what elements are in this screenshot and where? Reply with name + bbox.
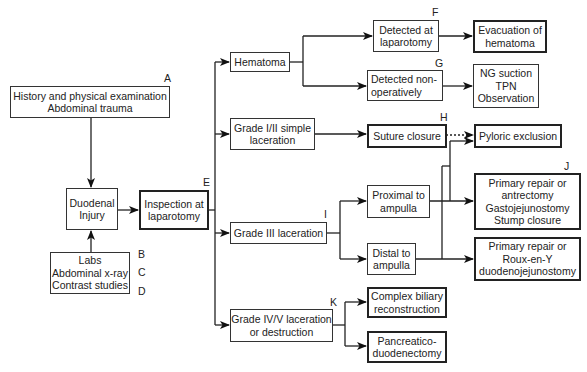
node-pancreatico: Pancreatico- duodenectomy [367, 331, 447, 363]
node-grade-3: Grade III laceration [230, 222, 327, 244]
letter-d: D [138, 285, 146, 297]
node-text: Grade IV/V laceration [231, 313, 331, 326]
node-text: reconstruction [374, 303, 440, 316]
node-inspection: Inspection at laparotomy [139, 190, 209, 230]
node-labs: Labs Abdominal x-ray Contrast studies [50, 252, 130, 294]
node-grade-4-5: Grade IV/V laceration or destruction [230, 309, 333, 342]
node-text: ampulla [380, 202, 417, 215]
node-text: laparotomy [148, 210, 200, 223]
node-text: Pancreatico- [378, 335, 437, 348]
node-text: Distal to [373, 247, 411, 260]
node-text: Inspection at [144, 198, 204, 211]
node-text: Proximal to [372, 189, 425, 202]
letter-i: I [324, 208, 327, 220]
node-text: Abdominal trauma [47, 102, 132, 115]
node-text: Abdominal x-ray [52, 267, 128, 280]
node-evacuation: Evacuation of hematoma [473, 20, 547, 53]
letter-j: J [564, 160, 569, 172]
node-text: Injury [79, 209, 105, 222]
node-text: laparotomy [380, 36, 432, 49]
node-text: Gastojejunostomy [485, 202, 569, 215]
node-text: Complex biliary [371, 290, 443, 303]
node-text: Detected non- [371, 73, 437, 86]
node-text: Roux-en-Y [502, 253, 552, 266]
node-primary-antrectomy: Primary repair or antrectomy Gastojejuno… [474, 173, 581, 230]
node-text: duodenectomy [373, 347, 442, 360]
letter-c: C [138, 266, 146, 278]
letter-f: F [432, 6, 438, 18]
letter-a: A [164, 72, 171, 84]
node-primary-roux: Primary repair or Roux-en-Y duodenojejun… [474, 237, 581, 281]
letter-g: G [435, 57, 443, 69]
node-complex-biliary: Complex biliary reconstruction [367, 287, 447, 318]
node-text: Grade III laceration [234, 227, 323, 240]
node-text: laceration [250, 134, 296, 147]
node-hematoma: Hematoma [230, 52, 290, 72]
node-pyloric-exclusion: Pyloric exclusion [474, 124, 562, 148]
node-text: Grade I/II simple [234, 122, 311, 135]
node-grade-1-2: Grade I/II simple laceration [230, 118, 315, 150]
node-text: Pyloric exclusion [479, 130, 557, 143]
node-text: Primary repair or [488, 177, 566, 190]
node-text: Observation [478, 92, 535, 105]
node-text: operatively [371, 86, 422, 99]
node-text: ampulla [373, 259, 410, 272]
node-text: Labs [79, 254, 102, 267]
node-detected-nonop: Detected non- operatively [367, 70, 443, 101]
letter-h: H [440, 111, 448, 123]
node-text: Primary repair or [488, 240, 566, 253]
node-text: duodenojejunostomy [479, 265, 576, 278]
node-suture-closure: Suture closure [367, 124, 447, 148]
node-text: History and physical examination [13, 90, 167, 103]
node-detected-laparotomy: Detected at laparotomy [373, 20, 439, 52]
letter-k: K [330, 296, 337, 308]
node-text: NG suction [480, 67, 532, 80]
letter-e: E [203, 176, 210, 188]
node-duodenal-injury: Duodenal Injury [66, 188, 118, 230]
node-text: Duodenal [70, 197, 115, 210]
node-ng-suction: NG suction TPN Observation [473, 64, 539, 108]
node-text: Suture closure [373, 130, 441, 143]
node-text: Contrast studies [52, 279, 128, 292]
node-text: Hematoma [234, 56, 285, 69]
node-text: Stump closure [494, 214, 561, 227]
node-text: Evacuation of [478, 24, 542, 37]
letter-b: B [138, 248, 145, 260]
node-history: History and physical examination Abdomin… [10, 86, 170, 118]
node-text: TPN [496, 80, 517, 93]
node-proximal: Proximal to ampulla [367, 185, 430, 218]
node-text: antrectomy [502, 189, 554, 202]
node-text: or destruction [250, 326, 314, 339]
node-distal: Distal to ampulla [367, 243, 416, 275]
node-text: hematoma [485, 37, 535, 50]
node-text: Detected at [379, 24, 433, 37]
